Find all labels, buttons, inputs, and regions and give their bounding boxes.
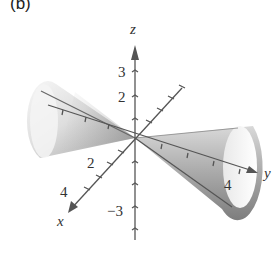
- z-tick-label-3: 3: [118, 64, 126, 80]
- x-axis-label: x: [56, 213, 64, 229]
- z-axis-label: z: [129, 21, 136, 37]
- x-tick-label-2: 2: [87, 155, 95, 171]
- x-tick-label-4: 4: [60, 184, 68, 200]
- z-tick-label-2: 2: [118, 89, 126, 105]
- y-tick-label-4: 4: [224, 177, 232, 193]
- panel-label: (b): [10, 0, 31, 13]
- right-nappe: [135, 126, 263, 220]
- double-cone-figure: (b) z 3 2 −3 2 4 x 4 y: [0, 0, 279, 265]
- z-tick-label-neg3: −3: [107, 203, 123, 219]
- y-axis-label: y: [262, 165, 271, 181]
